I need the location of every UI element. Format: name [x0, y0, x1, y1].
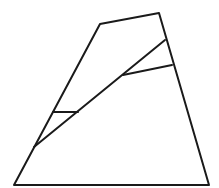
upper-cross-segment — [123, 65, 172, 75]
geometry-diagram — [0, 0, 219, 188]
inner-segments — [34, 40, 172, 147]
quadrilateral-outline — [14, 13, 209, 185]
main-diagonal — [34, 40, 165, 147]
